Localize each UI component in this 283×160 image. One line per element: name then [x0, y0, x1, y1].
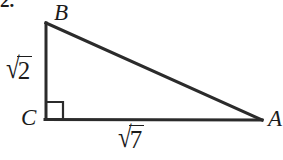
right-angle-marker: [46, 102, 63, 119]
triangle-leg-ca: [45, 120, 262, 121]
geometry-figure: 2. B C A √2 √7: [0, 0, 283, 160]
radicand-value: 7: [129, 125, 145, 152]
side-label-bc: √2: [6, 57, 32, 84]
triangle-hypotenuse-ba: [46, 23, 262, 120]
radical-expression-sqrt7: √7: [118, 126, 144, 153]
side-label-ca: √7: [118, 126, 144, 153]
vertex-label-c: C: [21, 106, 36, 129]
radicand-value: 2: [17, 56, 33, 83]
radical-expression-sqrt2: √2: [6, 57, 32, 84]
vertex-label-a: A: [268, 107, 282, 130]
vertex-label-b: B: [54, 1, 68, 24]
